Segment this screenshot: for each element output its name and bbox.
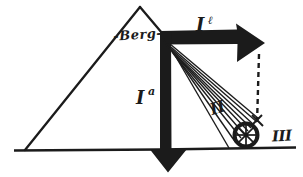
arrow-right-label-sup: ℓ	[208, 14, 213, 27]
x-mark-icon	[252, 115, 263, 126]
diagram-canvas: -Berg- I ℓ I a II III	[0, 0, 303, 177]
arrow-down-label-sup: a	[148, 85, 155, 98]
mountain-label: -Berg-	[113, 25, 163, 43]
dashed-plumb-line	[257, 54, 259, 124]
arrow-right-label-main: I	[195, 14, 205, 35]
force-arrow-down	[150, 31, 187, 173]
wheel-icon	[235, 124, 258, 147]
arrow-down-label-main: I	[135, 87, 145, 108]
hand-drawn-diagram: -Berg- I ℓ I a II III	[0, 0, 303, 177]
wheel-label: III	[271, 126, 294, 145]
